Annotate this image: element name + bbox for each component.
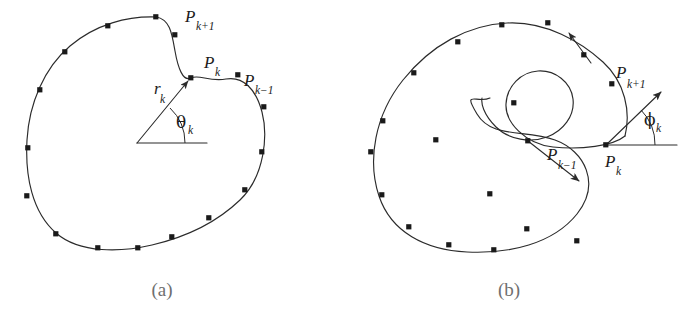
panel-b: P k+1 P k P k−1 ϕ k (b) [341, 0, 682, 323]
label-p-k-b: P k [604, 152, 622, 177]
label-p-k-plus-1-sub-b: k+1 [627, 78, 646, 90]
label-p-k-a: P k [203, 53, 221, 78]
label-p-k-sub-b: k [616, 165, 622, 177]
label-angle-theta-k: θ k [176, 112, 194, 136]
label-angle-base-b: ϕ [644, 109, 656, 129]
sample-points-b [368, 20, 614, 252]
label-p-k-plus-1-b: P k+1 [615, 63, 646, 90]
label-radius-rk: r k [154, 79, 166, 105]
label-p-k-base-b: P [604, 152, 615, 171]
label-p-k-minus-1-base-b: P [546, 145, 557, 164]
contour-curve-b [374, 23, 628, 252]
label-p-k-minus-1-sub-b: k−1 [558, 159, 577, 171]
contour-inner-hook-b [482, 71, 625, 148]
label-angle-base-a: θ [176, 112, 186, 132]
label-p-k-plus-1-a: P k+1 [184, 7, 215, 32]
label-p-k-minus-1-b: P k−1 [546, 145, 577, 171]
label-angle-sub-b: k [656, 122, 662, 134]
tangent-arrow-pk-plus-1-b [569, 33, 591, 63]
figure-root: P k+1 P k P k−1 r k θ k (a) [0, 0, 682, 323]
label-p-k-minus-1-sub-a: k−1 [255, 84, 274, 96]
label-p-k-plus-1-base-a: P [184, 7, 195, 26]
label-p-k-plus-1-sub-a: k+1 [196, 20, 215, 32]
label-angle-sub-a: k [188, 124, 194, 136]
label-p-k-plus-1-base-b: P [615, 63, 626, 82]
label-p-k-minus-1-a: P k−1 [243, 71, 274, 96]
label-p-k-sub-a: k [215, 66, 221, 78]
label-radius-sub: k [160, 93, 166, 105]
panel-a: P k+1 P k P k−1 r k θ k (a) [0, 0, 341, 323]
label-p-k-minus-1-base-a: P [243, 71, 254, 90]
caption-panel-a: (a) [151, 279, 172, 301]
label-p-k-base-a: P [203, 53, 214, 72]
caption-panel-b: (b) [498, 279, 520, 301]
